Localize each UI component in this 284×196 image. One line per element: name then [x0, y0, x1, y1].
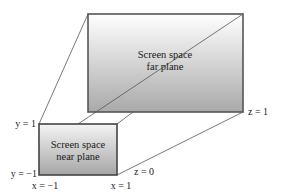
frustum-edge-top-left [39, 14, 88, 124]
far-plane-label-line2: far plane [146, 61, 183, 72]
frustum-edge-near-to-far [117, 112, 133, 124]
near-plane-label-line1: Screen space [51, 139, 106, 150]
far-plane-label-line1: Screen space [138, 49, 193, 60]
label-x-left: x = −1 [32, 180, 58, 191]
label-z-far: z = 1 [248, 106, 268, 117]
label-x-right: x = 1 [111, 180, 132, 191]
near-plane-label-line2: near plane [56, 151, 100, 162]
label-y-bottom: y = −1 [11, 168, 37, 179]
label-z-near: z = 0 [134, 166, 154, 177]
diagram-canvas: Screen space far plane Screen space near… [0, 0, 284, 196]
frustum-diagram: Screen space far plane Screen space near… [0, 0, 284, 196]
label-y-top: y = 1 [15, 118, 36, 129]
